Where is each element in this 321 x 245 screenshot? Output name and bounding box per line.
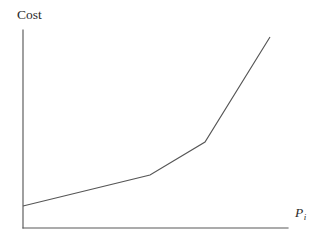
y-axis-label: Cost <box>17 8 42 22</box>
data-series-group <box>23 37 270 206</box>
cost-curve-line <box>23 37 270 206</box>
x-axis-label: Pi <box>295 206 306 220</box>
x-axis-label-subscript: i <box>304 212 307 222</box>
x-axis-label-symbol: P <box>295 205 303 220</box>
cost-curve-figure: Cost Pi <box>0 0 321 245</box>
plot-area <box>0 0 321 245</box>
axes-group <box>23 30 288 228</box>
